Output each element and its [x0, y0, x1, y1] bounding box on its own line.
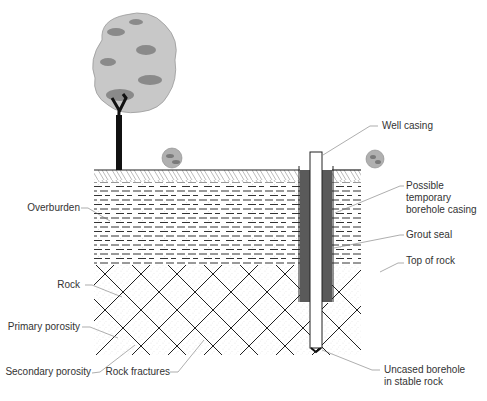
label-uncased-1: Uncased borehole	[384, 364, 466, 375]
shrub-icon	[366, 150, 384, 168]
rock-layer	[24, 265, 402, 355]
well-casing	[310, 152, 322, 348]
label-primary-porosity: Primary porosity	[8, 321, 80, 332]
label-overburden: Overburden	[27, 202, 80, 213]
label-temp-casing-1: Possible	[406, 180, 444, 191]
label-uncased-2: in stable rock	[384, 376, 444, 387]
grout-seal-left	[300, 170, 310, 302]
shrub-icon	[162, 148, 182, 168]
label-well-casing: Well casing	[382, 120, 433, 131]
grout-seal-right	[322, 170, 332, 302]
label-rock: Rock	[57, 279, 81, 290]
label-temp-casing-3: borehole casing	[406, 204, 477, 215]
label-secondary-porosity: Secondary porosity	[5, 366, 91, 377]
label-top-of-rock: Top of rock	[406, 255, 456, 266]
label-rock-fractures: Rock fractures	[106, 366, 170, 377]
label-grout-seal: Grout seal	[406, 229, 452, 240]
label-temp-casing-2: temporary	[406, 192, 451, 203]
well-diagram: Well casing Possible temporary borehole …	[0, 0, 487, 401]
tree-icon	[93, 13, 177, 170]
